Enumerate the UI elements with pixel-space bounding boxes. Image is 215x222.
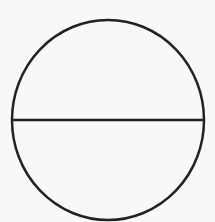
circle-diagram bbox=[0, 0, 215, 222]
background bbox=[0, 0, 215, 222]
